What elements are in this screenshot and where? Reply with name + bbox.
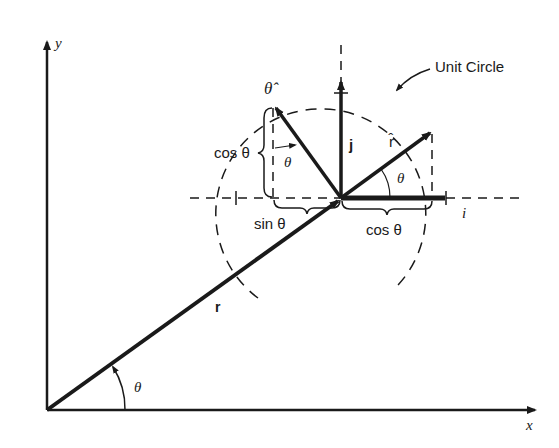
polar-unit-vector-diagram: y x Unit Circle r θ i j r̂ θ̂ θ θ cos θ (0, 0, 559, 448)
rhat-theta-label: θ (397, 170, 405, 186)
r-hat-vector (341, 133, 430, 198)
r-label: r (215, 299, 221, 315)
thetahat-theta-label: θ (284, 154, 292, 170)
r-vector (47, 201, 338, 410)
y-axis-label: y (53, 35, 62, 51)
theta-hat-vector (276, 108, 341, 198)
cos-horizontal-brace (342, 201, 432, 215)
rhat-angle-arc (381, 169, 390, 198)
r-hat-label: r̂ (388, 133, 394, 150)
unit-circle-pointer (397, 69, 430, 90)
cos-vertical-label: cos θ (214, 144, 250, 161)
unit-circle (216, 109, 426, 298)
j-label: j (348, 136, 353, 153)
thetahat-angle-arrow (275, 145, 295, 148)
theta-hat-label: θ̂ (264, 79, 279, 98)
cos-horizontal-label: cos θ (366, 221, 402, 238)
i-label: i (462, 205, 466, 221)
origin-theta-label: θ (134, 379, 142, 395)
origin-angle-arc (113, 367, 125, 410)
unit-circle-label: Unit Circle (435, 58, 504, 75)
x-axis-label: x (525, 417, 533, 433)
sin-label: sin θ (254, 215, 286, 232)
